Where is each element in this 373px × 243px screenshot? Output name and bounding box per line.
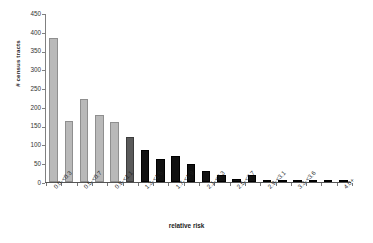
- bar-cell: [214, 14, 229, 182]
- bar: [171, 156, 180, 183]
- y-tick-label: 0: [20, 180, 41, 186]
- bar-cell: [244, 14, 259, 182]
- bar-cell: [336, 14, 351, 182]
- relative-risk-histogram: # census tracts 050100150200250300350400…: [0, 0, 373, 243]
- bar-cell: [168, 14, 183, 182]
- plot-area: [45, 14, 351, 183]
- y-tick-mark: [42, 14, 45, 15]
- bar-cell: [122, 14, 137, 182]
- x-axis-title: relative risk: [0, 222, 373, 229]
- bar: [324, 180, 333, 182]
- bar-cell: [107, 14, 122, 182]
- bar-cell: [229, 14, 244, 182]
- bar: [141, 150, 150, 182]
- y-tick-mark: [42, 33, 45, 34]
- y-tick-mark: [42, 127, 45, 128]
- y-tick-label: 300: [20, 67, 41, 73]
- bar-cell: [199, 14, 214, 182]
- bar-cell: [183, 14, 198, 182]
- bar-cell: [290, 14, 305, 182]
- bar: [49, 38, 58, 182]
- bar-series: [46, 14, 351, 182]
- bar: [110, 122, 119, 182]
- bar-cell: [260, 14, 275, 182]
- bar-cell: [46, 14, 61, 182]
- y-tick-mark: [42, 164, 45, 165]
- y-tick-label: 350: [20, 48, 41, 54]
- y-tick-label: 250: [20, 86, 41, 92]
- y-tick-mark: [42, 183, 45, 184]
- y-tick-label: 100: [20, 142, 41, 148]
- y-tick-label: 50: [20, 161, 41, 167]
- y-tick-mark: [42, 70, 45, 71]
- bar-cell: [138, 14, 153, 182]
- y-tick-mark: [42, 89, 45, 90]
- x-axis-tick-labels: 0.0-<0.30.5-<0.70.9-<1.11.3-<1.51.7-<1.9…: [45, 185, 351, 221]
- bar-cell: [77, 14, 92, 182]
- y-tick-mark: [42, 108, 45, 109]
- bar-cell: [275, 14, 290, 182]
- bar-cell: [153, 14, 168, 182]
- bar: [80, 99, 89, 182]
- y-tick-label: 200: [20, 105, 41, 111]
- y-tick-mark: [42, 145, 45, 146]
- bar-cell: [61, 14, 76, 182]
- y-tick-label: 150: [20, 123, 41, 129]
- y-tick-mark: [42, 52, 45, 53]
- bar-cell: [92, 14, 107, 182]
- y-tick-label: 450: [20, 11, 41, 17]
- bar-cell: [305, 14, 320, 182]
- bar-cell: [321, 14, 336, 182]
- y-tick-label: 400: [20, 30, 41, 36]
